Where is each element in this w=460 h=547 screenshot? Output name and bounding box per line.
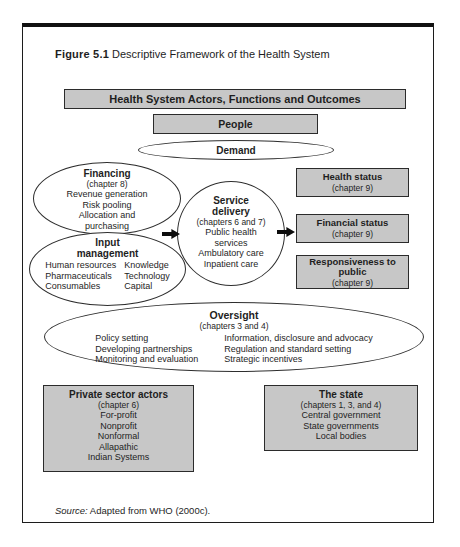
source-note: Source: Adapted from WHO (2000c). <box>55 505 210 516</box>
people-box: People <box>153 114 318 134</box>
health-status-title: Health status <box>323 172 383 183</box>
text-line: For-profit <box>88 410 150 421</box>
text-line: Strategic incentives <box>224 354 373 365</box>
input-management-col2: KnowledgeTechnologyCapital <box>124 260 170 292</box>
service-delivery-title: Service delivery <box>204 195 259 217</box>
text-line: Human resources <box>45 260 116 271</box>
private-sector-subtitle: (chapter 6) <box>98 400 139 410</box>
text-line: Indian Systems <box>88 452 150 463</box>
text-line: Nonformal <box>88 431 150 442</box>
text-line: Risk pooling <box>61 200 153 211</box>
state-subtitle: (chapters 1, 3, and 4) <box>301 400 382 410</box>
text-line: Public health services <box>188 227 274 248</box>
oversight-columns: Policy settingDeveloping partnershipsMon… <box>45 333 423 365</box>
responsiveness-box: Responsiveness to public (chapter 9) <box>296 255 409 289</box>
financial-status-subtitle: (chapter 9) <box>332 229 373 239</box>
input-management-ellipse: Input management Human resourcesPharmace… <box>29 232 186 306</box>
banner-box: Health System Actors, Functions and Outc… <box>64 89 406 109</box>
oversight-subtitle: (chapters 3 and 4) <box>45 321 423 331</box>
state-box: The state (chapters 1, 3, and 4) Central… <box>264 385 418 451</box>
figure-title: Descriptive Framework of the Health Syst… <box>109 48 330 60</box>
text-line: Technology <box>124 271 170 282</box>
text-line: Ambulatory care <box>188 248 274 259</box>
text-line: Central government <box>301 410 380 421</box>
source-text: Adapted from WHO (2000c). <box>88 505 211 516</box>
oversight-col1: Policy settingDeveloping partnershipsMon… <box>95 333 198 365</box>
health-status-box: Health status (chapter 9) <box>296 168 409 197</box>
oversight-col2: Information, disclosure and advocacyRegu… <box>224 333 373 365</box>
text-line: Consumables <box>45 281 116 292</box>
demand-label: Demand <box>216 145 255 156</box>
oversight-title: Oversight <box>45 309 423 321</box>
input-management-title: Input management <box>68 237 148 259</box>
private-sector-items: For-profitNonprofitNonformalAllapathicIn… <box>88 410 150 463</box>
text-line: Developing partnerships <box>95 344 198 355</box>
text-line: Monitoring and evaluation <box>95 354 198 365</box>
financial-status-title: Financial status <box>317 218 389 229</box>
figure-caption: Figure 5.1 Descriptive Framework of the … <box>55 48 330 60</box>
health-status-subtitle: (chapter 9) <box>332 183 373 193</box>
text-line: Capital <box>124 281 170 292</box>
state-title: The state <box>319 389 363 400</box>
text-line: Allapathic <box>88 442 150 453</box>
financing-title: Financing <box>34 168 180 179</box>
figure-frame: Figure 5.1 Descriptive Framework of the … <box>22 23 434 523</box>
financing-subtitle: (chapter 8) <box>34 179 180 189</box>
text-line: Regulation and standard setting <box>224 344 373 355</box>
text-line: Pharmaceuticals <box>45 271 116 282</box>
text-line: Nonprofit <box>88 421 150 432</box>
service-delivery-items: Public health servicesAmbulatory careInp… <box>178 227 284 269</box>
private-sector-title: Private sector actors <box>69 389 168 400</box>
financing-items: Revenue generationRisk poolingAllocation… <box>34 189 180 231</box>
figure-label: Figure 5.1 <box>55 48 109 60</box>
oversight-ellipse: Oversight (chapters 3 and 4) Policy sett… <box>44 302 424 372</box>
demand-ellipse: Demand <box>138 140 334 160</box>
people-label: People <box>218 118 252 130</box>
text-line: Revenue generation <box>61 189 153 200</box>
text-line: Allocation and purchasing <box>61 210 153 231</box>
text-line: Knowledge <box>124 260 170 271</box>
responsiveness-subtitle: (chapter 9) <box>332 278 373 288</box>
input-management-col1: Human resourcesPharmaceuticalsConsumable… <box>45 260 116 292</box>
service-delivery-subtitle: (chapters 6 and 7) <box>178 217 284 227</box>
text-line: Information, disclosure and advocacy <box>224 333 373 344</box>
private-sector-box: Private sector actors (chapter 6) For-pr… <box>43 385 194 472</box>
state-items: Central governmentState governmentsLocal… <box>301 410 380 442</box>
service-delivery-ellipse: Service delivery (chapters 6 and 7) Publ… <box>177 181 285 286</box>
text-line: Local bodies <box>301 431 380 442</box>
financing-ellipse: Financing (chapter 8) Revenue generation… <box>33 162 181 235</box>
text-line: State governments <box>301 421 380 432</box>
text-line: Inpatient care <box>188 259 274 270</box>
text-line: Policy setting <box>95 333 198 344</box>
source-prefix: Source: <box>55 505 88 516</box>
financial-status-box: Financial status (chapter 9) <box>296 214 409 243</box>
responsiveness-title: Responsiveness to public <box>299 257 406 278</box>
input-management-columns: Human resourcesPharmaceuticalsConsumable… <box>30 260 185 292</box>
banner-label: Health System Actors, Functions and Outc… <box>109 93 360 105</box>
